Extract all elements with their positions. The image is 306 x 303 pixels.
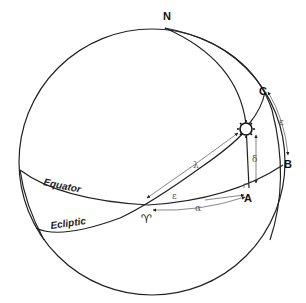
hour-circle-outer [165,28,281,240]
sphere-outline [19,29,285,295]
vernal-equinox-symbol: ♈ [141,212,152,226]
equator-label: Equator [43,176,83,195]
meridian-through-sun [165,28,249,188]
ecliptic-label: Ecliptic [50,215,87,231]
lambda-label: λ [193,160,199,170]
epsilon-arc-label: ε [279,117,284,127]
north-pole-label: N [163,10,171,22]
point-c-label: C [259,85,267,97]
alpha-label: α [195,203,201,213]
sun-icon [237,120,255,138]
celestial-sphere-diagram: N C B A Equator Ecliptic ♈ λ α δ ε ε [0,0,306,303]
epsilon-angle-label: ε [172,191,177,201]
point-a-label: A [244,192,252,204]
point-b-label: B [284,158,292,170]
delta-label: δ [252,154,257,164]
